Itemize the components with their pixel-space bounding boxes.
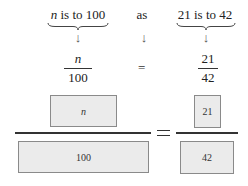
fraction-bar xyxy=(198,68,218,69)
fraction-denominator: 100 xyxy=(64,70,92,85)
down-arrow-icon: ↓ xyxy=(199,32,213,44)
box-numerator-n: n xyxy=(50,95,117,127)
fraction-n-over-100: n 100 xyxy=(64,52,92,85)
equals-sign: = xyxy=(138,60,145,76)
word-as: as xyxy=(132,8,152,22)
fraction-line-right xyxy=(176,132,238,134)
box-numerator-21: 21 xyxy=(194,95,221,128)
equals-sign-large xyxy=(157,130,170,136)
box-denominator-100: 100 xyxy=(18,141,149,173)
fraction-numerator: n xyxy=(64,52,92,67)
fraction-numerator: 21 xyxy=(198,52,218,67)
fraction-denominator: 42 xyxy=(198,70,218,85)
down-arrow-icon: ↓ xyxy=(71,32,85,44)
phrase-21-is-to-42: 21 is to 42 xyxy=(174,8,236,22)
down-arrow-icon: ↓ xyxy=(137,32,151,44)
box-denominator-42: 42 xyxy=(180,141,234,174)
fraction-bar xyxy=(64,68,92,69)
phrase-n-is-to-100: n is to 100 xyxy=(46,8,110,22)
fraction-line-left xyxy=(15,132,151,134)
fraction-21-over-42: 21 42 xyxy=(198,52,218,85)
phrase-left-rest: is to 100 xyxy=(57,7,105,22)
